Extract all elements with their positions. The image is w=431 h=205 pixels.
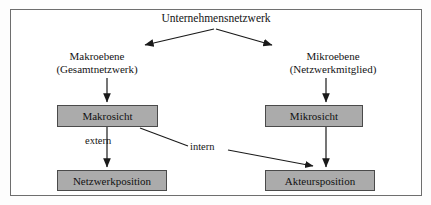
branch-right-level: Mikroebene (306, 50, 359, 62)
branch-right-scope: (Netzwerkmitglied) (248, 63, 418, 76)
edge-label-extern: extern (85, 135, 111, 146)
node-box-mikrosicht-label: Mikrosicht (290, 110, 338, 122)
node-box-makrosicht-label: Makrosicht (82, 110, 132, 122)
branch-label-left: Makroebene (Gesamtnetzwerk) (22, 50, 172, 76)
diagram-canvas: Unternehmensnetzwerk Makroebene (Gesamtn… (0, 0, 431, 205)
node-box-akteursposition-label: Akteursposition (285, 175, 355, 187)
branch-left-scope: (Gesamtnetzwerk) (22, 63, 172, 76)
node-box-akteursposition: Akteursposition (265, 170, 375, 191)
node-box-mikrosicht: Mikrosicht (265, 105, 363, 127)
branch-left-level: Makroebene (70, 50, 125, 62)
diagram-title: Unternehmensnetzwerk (116, 12, 316, 25)
node-box-netzwerkposition: Netzwerkposition (57, 170, 167, 191)
branch-label-right: Mikroebene (Netzwerkmitglied) (248, 50, 418, 76)
node-box-netzwerkposition-label: Netzwerkposition (73, 175, 151, 187)
edge-label-intern: intern (190, 141, 215, 152)
node-box-makrosicht: Makrosicht (57, 105, 158, 127)
diagram-frame (10, 9, 422, 196)
